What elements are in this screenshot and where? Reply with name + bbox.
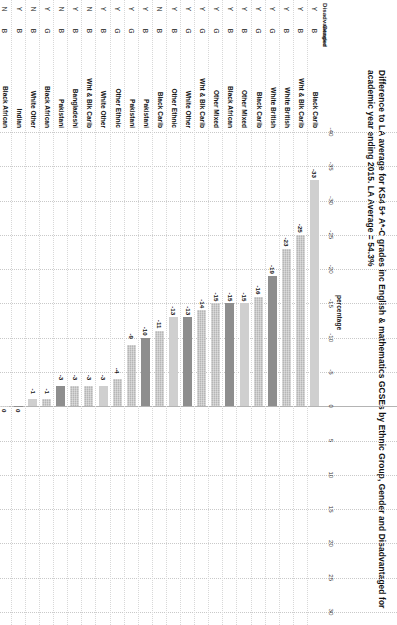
bar-value-label: -4: [114, 368, 121, 374]
table-row: YBIndian0: [11, 0, 25, 625]
table-row: YBWhite British-23: [279, 0, 293, 625]
bar[interactable]: [113, 379, 122, 406]
bar[interactable]: [282, 249, 291, 407]
bar-cell: 0: [0, 0, 11, 625]
bar[interactable]: [141, 338, 150, 407]
bar-cell: -15: [237, 0, 250, 625]
table-row: YGOther Ethnic-4: [110, 0, 124, 625]
bar[interactable]: [42, 399, 51, 406]
bar-cell: -13: [181, 0, 194, 625]
bar-value-label: -23: [283, 238, 290, 247]
bar-cell: -10: [139, 0, 152, 625]
bar-chart-figure: Difference to LA average for KS4 5+ A*-C…: [0, 0, 397, 625]
bar-cell: -14: [195, 0, 208, 625]
table-row: YGWhite Other-13: [180, 0, 194, 625]
bar[interactable]: [240, 303, 249, 406]
bar-value-label: -13: [185, 306, 192, 315]
bar[interactable]: [310, 180, 319, 406]
bar-value-label: 0: [1, 409, 8, 412]
bar-cell: -4: [111, 0, 124, 625]
table-row: YBPakistani-10: [138, 0, 152, 625]
table-row: NBBlack African0: [0, 0, 11, 625]
bar-value-label: -3: [72, 375, 79, 381]
bar-value-label: -10: [142, 327, 149, 336]
bar-value-label: -1: [44, 388, 51, 394]
bar-value-label: -14: [199, 299, 206, 308]
bar-value-label: -11: [156, 320, 163, 329]
table-row: YBWht & Blk Carib-25: [293, 0, 307, 625]
bar-cell: -3: [97, 0, 110, 625]
bar-value-label: -1: [30, 388, 37, 394]
bar-cell: -3: [68, 0, 81, 625]
bar-value-label: -3: [86, 375, 93, 381]
table-row: YBBlack African-15: [222, 0, 236, 625]
bar[interactable]: [99, 386, 108, 407]
bar[interactable]: [56, 386, 65, 407]
table-row: YGBlack Carib-16: [251, 0, 265, 625]
table-row: NBBlack Carib-11: [152, 0, 166, 625]
bar-cell: -1: [40, 0, 53, 625]
bar[interactable]: [268, 276, 277, 406]
bar[interactable]: [183, 317, 192, 406]
bar[interactable]: [211, 303, 220, 406]
table-row: NBWht & Blk Carib-3: [81, 0, 95, 625]
bar[interactable]: [197, 310, 206, 406]
bar-cell: -25: [294, 0, 307, 625]
bar[interactable]: [155, 331, 164, 406]
bar-cell: -19: [266, 0, 279, 625]
bar-value-label: -19: [269, 265, 276, 274]
table-row: NBWhite Other-1: [25, 0, 39, 625]
rotated-figure-container: Difference to LA average for KS4 5+ A*-C…: [0, 0, 397, 625]
bar-cell: -3: [82, 0, 95, 625]
column-header-gender: Gender: [322, 25, 329, 47]
bar[interactable]: [225, 303, 234, 406]
bar-value-label: -15: [213, 292, 220, 301]
table-header-row: Disadvantaged Gender: [321, 0, 387, 625]
bar-cell: -1: [26, 0, 39, 625]
bar[interactable]: [85, 386, 94, 407]
table-row: YGBlack African-1: [39, 0, 53, 625]
bar-cell: 0: [12, 0, 25, 625]
bar-value-label: -33: [311, 169, 318, 178]
bar-cell: -15: [209, 0, 222, 625]
table-row: YGPakistani-9: [124, 0, 138, 625]
bar-value-label: -25: [297, 224, 304, 233]
table-row: YGWhite British-19: [265, 0, 279, 625]
plot-area: -40-35-30-25-20-15-10-5051015202530 perc…: [0, 0, 397, 625]
bar-value-label: -9: [128, 334, 135, 340]
bar-value-label: -16: [255, 286, 262, 295]
bar[interactable]: [169, 317, 178, 406]
table-row: YBOther Ethnic-13: [166, 0, 180, 625]
bar[interactable]: [254, 297, 263, 407]
bar[interactable]: [70, 386, 79, 407]
bar[interactable]: [127, 345, 136, 407]
bar-value-label: -3: [58, 375, 65, 381]
table-row: YGOther Mixed-15: [208, 0, 222, 625]
bar[interactable]: [14, 406, 23, 407]
bar-cell: -3: [54, 0, 67, 625]
table-row: YBBlack Carib-33: [307, 0, 321, 625]
bar-cell: -11: [153, 0, 166, 625]
table-row: YBWhite Other-3: [96, 0, 110, 625]
bar-value-label: -15: [241, 292, 248, 301]
bar-cell: -9: [125, 0, 138, 625]
bar-value-label: -15: [227, 292, 234, 301]
category-rows: Disadvantaged Gender YBBlack Carib-33YBW…: [0, 0, 321, 625]
bar-cell: -13: [167, 0, 180, 625]
bar-cell: -16: [252, 0, 265, 625]
table-row: YBOther Mixed-15: [236, 0, 250, 625]
table-row: YGWht & Blk Carib-14: [194, 0, 208, 625]
bar-cell: -15: [223, 0, 236, 625]
bar-cell: -23: [280, 0, 293, 625]
table-row: NBPakistani-3: [53, 0, 67, 625]
bar-value-label: 0: [15, 409, 22, 412]
bar-value-label: -13: [170, 306, 177, 315]
table-row: YBBangladeshi-3: [67, 0, 81, 625]
bar[interactable]: [28, 399, 37, 406]
bar[interactable]: [296, 235, 305, 406]
bar-cell: -33: [308, 0, 321, 625]
bar[interactable]: [0, 406, 9, 407]
bar-value-label: -3: [100, 375, 107, 381]
